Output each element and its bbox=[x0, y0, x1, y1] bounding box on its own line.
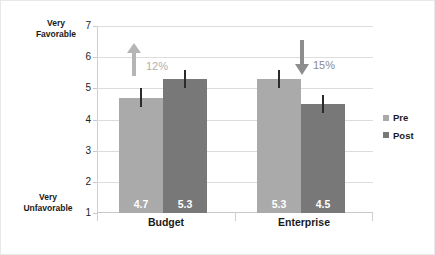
annotation-budget-increase: 12% bbox=[125, 41, 143, 81]
y-tick-2: 2 bbox=[77, 177, 91, 187]
bar-budget-post[interactable]: 5.3 bbox=[163, 79, 207, 213]
axis-anchor-low-label: Very Unfavorable bbox=[15, 192, 81, 213]
y-axis-tick-labels: 7 6 5 4 3 2 1 bbox=[75, 26, 91, 213]
bar-value-budget-pre: 4.7 bbox=[119, 199, 163, 210]
error-bar-budget-pre bbox=[140, 88, 142, 107]
y-tick-5: 5 bbox=[77, 83, 91, 93]
y-tick-7: 7 bbox=[77, 21, 91, 31]
bar-budget-pre[interactable]: 4.7 bbox=[119, 98, 163, 213]
legend-label-pre: Pre bbox=[393, 113, 408, 123]
gridline-5 bbox=[97, 88, 373, 89]
error-bar-enterprise-pre bbox=[278, 70, 280, 89]
axis-anchor-low-line2: Unfavorable bbox=[15, 203, 81, 214]
bar-enterprise-pre[interactable]: 5.3 bbox=[257, 79, 301, 213]
error-bar-enterprise-post bbox=[322, 95, 324, 114]
x-axis-category-labels: Budget Enterprise bbox=[97, 217, 373, 235]
bar-enterprise-post[interactable]: 4.5 bbox=[301, 104, 345, 213]
square-swatch-icon-post bbox=[383, 132, 389, 138]
y-tick-6: 6 bbox=[77, 52, 91, 62]
error-bar-budget-post bbox=[184, 70, 186, 89]
bar-value-enterprise-post: 4.5 bbox=[301, 199, 345, 210]
legend-item-pre[interactable]: Pre bbox=[383, 113, 433, 123]
legend: Pre Post bbox=[383, 113, 433, 148]
chart-container: Very Favorable Very Unfavorable 7 6 5 4 … bbox=[0, 0, 435, 255]
bar-value-budget-post: 5.3 bbox=[163, 199, 207, 210]
y-tick-1: 1 bbox=[77, 208, 91, 218]
square-swatch-icon-pre bbox=[383, 115, 389, 121]
legend-item-post[interactable]: Post bbox=[383, 131, 433, 141]
y-tick-3: 3 bbox=[77, 146, 91, 156]
legend-label-post: Post bbox=[393, 131, 414, 141]
annotation-budget-percent: 12% bbox=[146, 61, 168, 72]
annotation-enterprise-percent: 15% bbox=[313, 60, 335, 71]
arrow-down-icon bbox=[293, 37, 311, 77]
category-label-enterprise: Enterprise bbox=[235, 217, 373, 229]
annotation-enterprise-decrease: 15% bbox=[293, 37, 311, 81]
bar-value-enterprise-pre: 5.3 bbox=[257, 199, 301, 210]
category-label-budget: Budget bbox=[97, 217, 235, 229]
gridline-7 bbox=[97, 26, 373, 27]
arrow-up-icon bbox=[125, 41, 143, 77]
axis-anchor-low-line1: Very bbox=[15, 192, 81, 203]
y-tick-4: 4 bbox=[77, 115, 91, 125]
